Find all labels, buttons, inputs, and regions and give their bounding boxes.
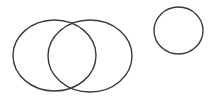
ellipse-left [13, 20, 96, 91]
diagram-canvas [0, 0, 213, 101]
ellipse-right [48, 20, 132, 92]
circle-standalone [154, 7, 203, 54]
